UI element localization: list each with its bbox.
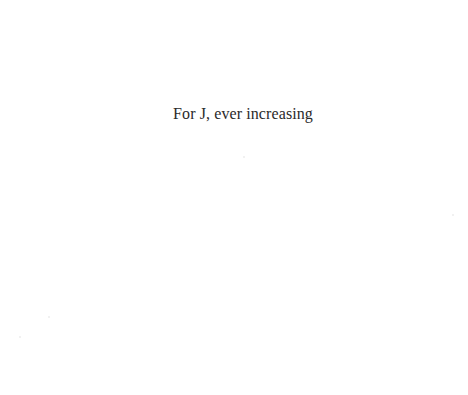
scan-speck [452, 214, 454, 216]
scan-speck [243, 156, 245, 158]
dedication-text: For J, ever increasing [0, 104, 468, 124]
document-page: For J, ever increasing [0, 0, 468, 395]
scan-speck [48, 316, 50, 318]
scan-speck [19, 336, 21, 338]
